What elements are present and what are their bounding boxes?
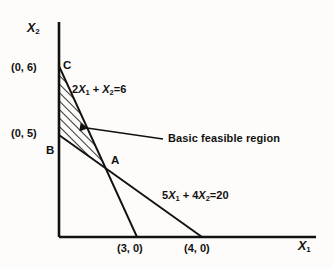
point-label-0-5: (0, 5) [11, 128, 37, 139]
point-label-0-6: (0, 6) [11, 62, 37, 73]
basic-feasible-region-label: Basic feasible region [168, 133, 280, 144]
point-label-3-0: (3, 0) [117, 243, 143, 254]
vertex-label-a: A [111, 155, 119, 167]
vertex-label-c: C [63, 60, 71, 72]
constraint-1-equation: 2X1 + X2=6 [72, 84, 126, 95]
y-axis-label: X2 [27, 22, 40, 35]
vertex-label-b: B [46, 145, 54, 157]
point-label-4-0: (4, 0) [184, 243, 210, 254]
feasible-region-figure [0, 0, 333, 268]
x-axis-label: X1 [298, 240, 311, 253]
constraint-2-equation: 5X1 + 4X2=20 [162, 190, 229, 201]
